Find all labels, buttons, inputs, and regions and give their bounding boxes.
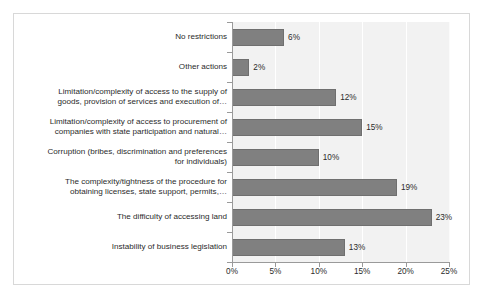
value-axis-line: [232, 262, 450, 263]
bar: [232, 209, 432, 226]
bar: [232, 89, 336, 106]
chart-screenshot: 6%2%12%15%10%19%23%13% No restrictionsOt…: [0, 0, 483, 301]
category-label: Corruption (bribes, discrimination and p…: [16, 142, 231, 172]
category-label: Instability of business legislation: [16, 232, 231, 262]
value-axis-label: 20%: [397, 267, 413, 276]
value-axis-tick-labels: 0%5%10%15%20%25%: [232, 267, 450, 281]
bar-row: 10%: [232, 142, 339, 172]
value-axis-label: 25%: [441, 267, 457, 276]
category-label: No restrictions: [16, 22, 231, 52]
bar-value-label: 23%: [436, 213, 452, 222]
bar-row: 2%: [232, 52, 265, 82]
bar-row: 12%: [232, 82, 357, 112]
category-axis-labels: No restrictionsOther actionsLimitation/c…: [16, 22, 231, 262]
bar-value-label: 6%: [288, 33, 300, 42]
bar: [232, 119, 362, 136]
bar-row: 6%: [232, 22, 300, 52]
bar-value-label: 13%: [349, 243, 365, 252]
category-label: Limitation/complexity of access to the s…: [16, 82, 231, 112]
category-label: Limitation/complexity of access to procu…: [16, 112, 231, 142]
bar: [232, 29, 284, 46]
bar: [232, 179, 397, 196]
value-axis-label: 0%: [226, 267, 238, 276]
bar-value-label: 12%: [340, 93, 356, 102]
plot-area: 6%2%12%15%10%19%23%13%: [232, 22, 449, 262]
category-axis-line: [232, 22, 233, 263]
value-axis-label: 5%: [269, 267, 281, 276]
bar-value-label: 10%: [323, 153, 339, 162]
chart-frame: 6%2%12%15%10%19%23%13% No restrictionsOt…: [13, 13, 470, 285]
bar-row: 13%: [232, 232, 365, 262]
bar-value-label: 2%: [253, 63, 265, 72]
bar: [232, 239, 345, 256]
bar: [232, 149, 319, 166]
bar-row: 23%: [232, 202, 452, 232]
bar-value-label: 19%: [401, 183, 417, 192]
bar-value-label: 15%: [366, 123, 382, 132]
bar: [232, 59, 249, 76]
value-axis-label: 10%: [311, 267, 327, 276]
category-label: The difficulty of accessing land: [16, 202, 231, 232]
value-axis-label: 15%: [354, 267, 370, 276]
bar-row: 19%: [232, 172, 417, 202]
category-label: The complexity/tightness of the procedur…: [16, 172, 231, 202]
bar-row: 15%: [232, 112, 383, 142]
category-label: Other actions: [16, 52, 231, 82]
